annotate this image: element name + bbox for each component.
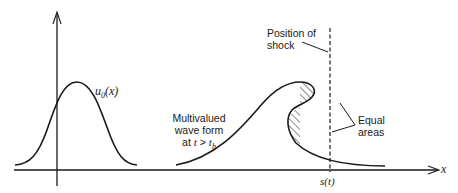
initial-profile-label: u0(x) <box>95 85 118 102</box>
shock-position-label: s(t) <box>320 175 335 187</box>
shock-label: Position of shock <box>267 27 316 51</box>
shock-equal-area-diagram: u0(x) Multivalued wave form at t > tb Po… <box>0 0 458 193</box>
areas-label-pointer <box>332 103 355 132</box>
wave-form-label: Multivalued wave form at t > tb <box>166 112 232 153</box>
x-axis <box>14 166 439 174</box>
x-axis-label: x <box>441 163 446 175</box>
equal-areas-label: Equal areas <box>358 114 385 138</box>
diagram-canvas <box>0 0 458 193</box>
y-axis <box>53 12 61 186</box>
initial-profile-curve <box>15 82 137 165</box>
